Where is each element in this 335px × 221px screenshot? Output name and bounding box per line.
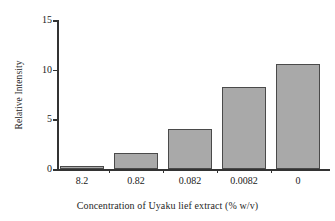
x-tick-mark xyxy=(109,169,110,173)
x-tick-mark xyxy=(217,169,218,173)
plot-area: 0 5 10 15 8.2 0.82 0.082 0.0082 0 xyxy=(57,20,329,169)
x-tick-mark xyxy=(163,169,164,173)
bar-category-2 xyxy=(168,129,212,169)
bar-category-1 xyxy=(114,153,158,169)
x-axis-title: Concentration of Uyaku lief extract (% w… xyxy=(0,200,335,211)
y-tick-label: 5 xyxy=(47,114,52,124)
x-tick-label-0: 8.2 xyxy=(60,176,104,186)
y-tick-mark xyxy=(53,169,58,171)
bar-category-0 xyxy=(60,166,104,169)
x-tick-label-2: 0.082 xyxy=(168,176,212,186)
bar-category-3 xyxy=(222,87,266,169)
bar-category-4 xyxy=(276,64,320,169)
x-tick-label-4: 0 xyxy=(276,176,320,186)
y-tick-label: 10 xyxy=(42,65,52,75)
x-tick-label-1: 0.82 xyxy=(114,176,158,186)
x-axis-line xyxy=(53,169,330,171)
x-tick-mark xyxy=(271,169,272,173)
y-tick-label: 15 xyxy=(42,15,52,25)
y-tick-label: 0 xyxy=(47,164,52,174)
bars-layer xyxy=(57,20,329,169)
x-tick-label-3: 0.0082 xyxy=(222,176,266,186)
bar-chart: Relative Intensity 0 5 10 15 xyxy=(0,0,335,221)
y-axis-title: Relative Intensity xyxy=(14,10,32,180)
